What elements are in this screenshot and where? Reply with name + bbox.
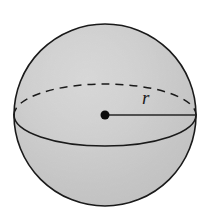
center-point-dot (101, 111, 110, 120)
sphere-diagram-svg (0, 0, 201, 213)
sphere-figure: r (0, 0, 201, 213)
radius-label: r (142, 88, 149, 107)
